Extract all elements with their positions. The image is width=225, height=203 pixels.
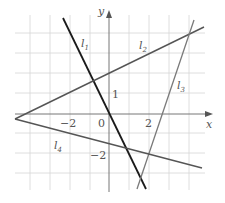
y-axis-label: y	[97, 5, 105, 18]
label-l2: l2	[139, 39, 148, 54]
axes	[15, 16, 208, 192]
tick-x-2: 2	[145, 117, 152, 130]
label-l1: l1	[81, 37, 89, 52]
coordinate-plane: x y 0 −2 2 1 −2 l1 l2 l3 l4	[0, 0, 225, 203]
x-axis-label: x	[206, 118, 213, 131]
tick-y-1: 1	[112, 88, 119, 101]
tick-x-neg2: −2	[60, 117, 76, 130]
label-l4: l4	[54, 139, 62, 154]
grid	[15, 15, 205, 190]
label-l3: l3	[177, 79, 186, 94]
x-axis-arrow-icon	[205, 111, 213, 117]
y-axis-arrow-icon	[106, 10, 112, 18]
origin-label: 0	[98, 117, 105, 130]
line-l1	[63, 18, 146, 189]
tick-y-neg2: −2	[90, 149, 106, 162]
